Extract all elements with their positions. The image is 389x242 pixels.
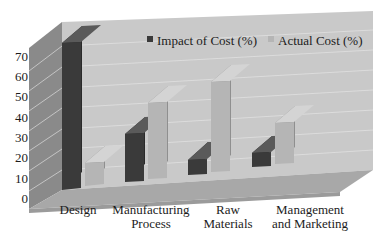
bar-design-impact-front	[62, 42, 81, 190]
y-tick-label-60: 60	[2, 70, 28, 83]
y-tick-label-40: 40	[2, 111, 28, 124]
bar-manufacturing-impact-front	[125, 133, 144, 182]
bar-management-actual-front	[275, 122, 294, 164]
y-tick-label-20: 20	[2, 151, 28, 164]
x-category-label-management-and-marketing: Management and Marketing	[255, 203, 365, 231]
bar-chart-figure: 70 60 50 40 30 20 10 0 Design Manufactur…	[0, 0, 389, 242]
legend-swatch-impact-of-cost	[147, 36, 153, 42]
x-category-label-raw-materials: Raw Materials	[192, 203, 264, 231]
y-tick-label-0: 0	[2, 192, 28, 205]
y-tick-label-30: 30	[2, 131, 28, 144]
bar-raw-impact-front	[188, 159, 207, 175]
bar-manufacturing-actual-front	[148, 102, 167, 179]
bar-management-impact-front	[252, 152, 271, 167]
y-tick-label-70: 70	[2, 50, 28, 63]
bar-design-actual-front	[85, 162, 104, 186]
x-category-label-manufacturing-process: Manufacturing Process	[101, 203, 201, 231]
y-tick-label-50: 50	[2, 90, 28, 103]
legend-swatch-actual-cost	[268, 36, 274, 42]
bar-raw-actual-front	[211, 81, 230, 172]
legend-label-actual-cost: Actual Cost (%)	[278, 34, 362, 47]
y-tick-label-10: 10	[2, 172, 28, 185]
legend-label-impact-of-cost: Impact of Cost (%)	[157, 34, 257, 47]
